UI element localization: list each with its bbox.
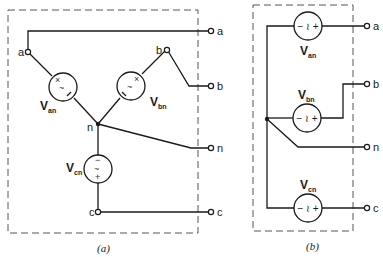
caption-b: (b)	[306, 240, 319, 253]
terminal-label-n: n	[373, 141, 379, 153]
terminal-label-b: b	[217, 80, 223, 92]
node-c	[95, 209, 100, 214]
source-ac-mark: ~	[127, 82, 132, 92]
source-polarity-symbol: − ≀ +	[297, 21, 318, 32]
node-label-b: b	[156, 44, 162, 56]
source-vcn: − ~ +	[84, 155, 112, 183]
terminal-label-c: c	[373, 202, 379, 214]
label-van: Van	[40, 99, 56, 114]
wire-b	[168, 51, 208, 86]
wire-common-bus	[267, 26, 294, 208]
figure-a-dashed-boundary	[8, 10, 198, 233]
figure-b: − ≀ + − ≀ + − ≀ + Van Vbn Vcn a b n c (b…	[253, 5, 380, 253]
terminal-label-a: a	[373, 20, 380, 32]
node-b	[164, 47, 169, 52]
node-a	[25, 49, 30, 54]
terminal-n	[364, 144, 369, 149]
wire-van-to-n	[74, 98, 98, 124]
label-vbn: Vbn	[150, 95, 167, 110]
source-van: × ~	[49, 73, 77, 101]
source-vbn: × ~	[117, 72, 145, 100]
wire-a-to-van	[28, 52, 52, 76]
label-vcn: Vcn	[66, 161, 82, 176]
terminal-label-b: b	[373, 78, 379, 90]
terminal-b	[364, 81, 369, 86]
terminal-label-c: c	[217, 206, 223, 218]
terminal-a	[208, 28, 213, 33]
wire-b	[321, 84, 364, 118]
label-vbn-b: Vbn	[298, 88, 315, 103]
node-n-junction	[96, 122, 100, 126]
wire-n	[98, 124, 208, 148]
caption-a: (a)	[97, 242, 110, 255]
node-label-c: c	[89, 206, 95, 218]
wire-vbn-to-n	[98, 98, 120, 124]
source-polarity-symbol: − ≀ +	[296, 113, 317, 124]
figure-a: × ~ × ~ − ~ + Van Vbn Vcn a b n c a	[8, 10, 224, 255]
source-polarity-mark: ×	[134, 74, 139, 84]
source-polarity-symbol: − ≀ +	[297, 203, 318, 214]
terminal-c	[208, 209, 213, 214]
terminal-c	[364, 205, 369, 210]
source-van-b: − ≀ +	[294, 12, 322, 40]
source-vbn-b: − ≀ +	[293, 104, 321, 132]
source-vcn-b: − ≀ +	[294, 194, 322, 222]
label-van-b: Van	[300, 44, 316, 59]
terminal-label-n: n	[217, 142, 223, 154]
node-label-a: a	[18, 46, 25, 58]
terminal-a	[364, 23, 369, 28]
terminal-label-a: a	[217, 25, 224, 37]
terminal-b	[208, 83, 213, 88]
label-vcn-b: Vcn	[300, 178, 316, 193]
neutral-junction	[265, 117, 269, 121]
terminal-n	[208, 145, 213, 150]
source-ac-mark: ~	[59, 83, 64, 93]
three-phase-wye-diagram: × ~ × ~ − ~ + Van Vbn Vcn a b n c a	[0, 0, 383, 257]
wire-a	[28, 31, 208, 50]
source-plus-mark: +	[95, 172, 100, 182]
node-label-n: n	[87, 121, 93, 133]
